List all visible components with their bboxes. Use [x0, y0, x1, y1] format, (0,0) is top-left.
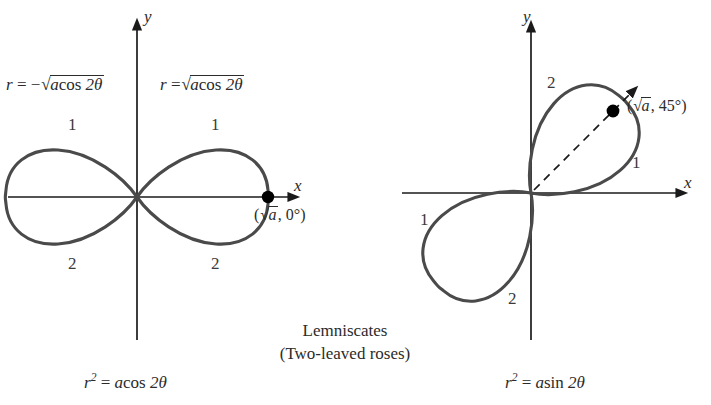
equals-sign: = — [171, 75, 181, 94]
figure-caption-line1: Lemniscates — [250, 322, 440, 339]
left-branch-number-lower-left: 2 — [68, 255, 77, 272]
r-symbol: r — [160, 75, 167, 94]
right-x-axis-label: x — [684, 174, 692, 191]
equals-sign: = — [522, 373, 532, 392]
figure-canvas: y x r = −√acos 2θ r =√acos 2θ 1 1 2 2 (√… — [0, 0, 711, 405]
angle-value: 45° — [659, 97, 681, 114]
right-branch-number-upper: 2 — [547, 74, 556, 91]
two-theta: 2θ — [150, 373, 167, 392]
radicand: acos 2θ — [50, 75, 104, 93]
right-y-axis-label: y — [523, 8, 531, 25]
r-symbol: r — [505, 373, 512, 392]
angle-value: 0° — [286, 206, 300, 223]
equals-sign: = — [17, 75, 27, 94]
equals-sign: = — [101, 373, 111, 392]
radical-group: √a — [259, 206, 278, 223]
figure-caption-line2: (Two-leaved roses) — [250, 345, 440, 362]
left-x-axis-label: x — [294, 177, 302, 194]
left-y-axis-label: y — [144, 8, 152, 25]
radical-group: √a — [632, 97, 651, 114]
paren-close: ) — [681, 97, 686, 114]
radical-group: √acos 2θ — [40, 75, 103, 93]
a-symbol: a — [115, 373, 124, 392]
right-equation: r2 = asin 2θ — [505, 372, 585, 391]
left-equation: r2 = acos 2θ — [84, 372, 167, 391]
radicand: a — [268, 206, 278, 223]
r-symbol: r — [6, 75, 13, 94]
right-branch-number-right: 1 — [632, 154, 641, 171]
right-branch-number-lower: 2 — [508, 290, 517, 307]
exponent-two: 2 — [512, 371, 518, 384]
cos-text: cos — [123, 373, 146, 392]
r-symbol: r — [84, 373, 91, 392]
left-marked-point — [262, 191, 274, 203]
paren-close: ) — [300, 206, 305, 223]
two-theta: 2θ — [226, 75, 243, 94]
a-symbol: a — [50, 75, 59, 94]
minus-sign: − — [31, 75, 41, 94]
left-branch-number-upper-right: 1 — [211, 116, 220, 133]
a-symbol: a — [536, 373, 545, 392]
radical-group: √acos 2θ — [180, 75, 243, 93]
sin-text: sin — [544, 373, 564, 392]
left-point-label: (√a, 0°) — [254, 206, 306, 223]
cos-text: cos — [199, 75, 222, 94]
left-branch-equation-positive: r =√acos 2θ — [160, 75, 244, 93]
left-branch-number-lower-right: 2 — [211, 255, 220, 272]
left-branch-equation-negative: r = −√acos 2θ — [6, 75, 104, 93]
radicand: a — [641, 97, 651, 114]
radicand: acos 2θ — [190, 75, 244, 93]
right-marked-point — [607, 105, 620, 118]
sqrt-a: a — [269, 206, 277, 223]
left-branch-number-upper-left: 1 — [68, 116, 77, 133]
right-point-label: (√a, 45°) — [627, 97, 687, 114]
right-branch-number-left: 1 — [420, 211, 429, 228]
two-theta: 2θ — [568, 373, 585, 392]
a-symbol: a — [190, 75, 199, 94]
exponent-two: 2 — [91, 371, 97, 384]
two-theta: 2θ — [86, 75, 103, 94]
comma: , — [278, 206, 286, 223]
cos-text: cos — [59, 75, 82, 94]
comma: , — [651, 97, 659, 114]
sqrt-a: a — [642, 97, 650, 114]
